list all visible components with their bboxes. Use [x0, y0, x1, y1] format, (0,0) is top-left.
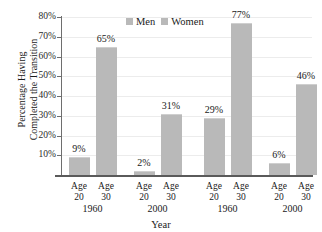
bar-chart: Percentage Having Completed the Transiti…	[0, 0, 322, 232]
x-axis-group-label: 1960	[203, 204, 253, 214]
y-axis-tick-label: 30%	[22, 111, 56, 121]
bar[interactable]	[96, 47, 117, 175]
x-axis-tick-label-word: Age	[221, 181, 261, 192]
bar-value-label: 2%	[124, 158, 164, 168]
y-axis-tick-label: 10%	[22, 150, 56, 160]
bar[interactable]	[134, 171, 155, 175]
legend: Men Women	[126, 16, 204, 27]
plot-area: 9%65%2%31%29%77%6%46%	[62, 17, 312, 175]
bar[interactable]	[161, 114, 182, 175]
bar-value-label: 65%	[86, 34, 126, 44]
x-axis-tick-label-word: Age	[86, 181, 126, 192]
y-axis-tick-label: 20%	[22, 131, 56, 141]
x-axis-group-label: 2000	[133, 204, 183, 214]
x-axis-title: Year	[0, 219, 322, 230]
legend-label-men: Men	[136, 16, 155, 27]
x-axis-tick-label-number: 30	[86, 192, 126, 203]
bar-value-label: 31%	[151, 101, 191, 111]
bar[interactable]	[296, 84, 317, 175]
x-axis-tick-label: Age30	[86, 181, 126, 202]
y-axis-tick-label: 70%	[22, 32, 56, 42]
legend-item-men[interactable]: Men	[126, 16, 155, 27]
x-axis-group-label: 2000	[268, 204, 318, 214]
x-axis-tick-label: Age30	[221, 181, 261, 202]
bar-value-label: 77%	[221, 10, 261, 20]
bar[interactable]	[269, 163, 290, 175]
legend-label-women: Women	[171, 16, 203, 27]
legend-swatch-icon-men	[126, 18, 133, 25]
y-axis-tick-labels: 80%70%60%50%40%30%20%10%	[18, 0, 56, 232]
bar-value-label: 6%	[259, 150, 299, 160]
bar[interactable]	[231, 23, 252, 175]
x-axis-line	[55, 175, 313, 177]
bar[interactable]	[204, 118, 225, 175]
x-axis-tick-label: Age30	[151, 181, 191, 202]
y-axis-tick-label: 50%	[22, 71, 56, 81]
x-axis-tick-label-number: 30	[151, 192, 191, 203]
bar-value-label: 29%	[194, 105, 234, 115]
x-axis-tick-label: Age30	[286, 181, 322, 202]
x-axis-tick-label-number: 30	[221, 192, 261, 203]
bar-value-label: 9%	[59, 144, 99, 154]
x-axis-tick-label-word: Age	[286, 181, 322, 192]
y-axis-tick-label: 60%	[22, 52, 56, 62]
legend-item-women[interactable]: Women	[161, 16, 203, 27]
x-axis-tick-label-number: 30	[286, 192, 322, 203]
bar[interactable]	[69, 157, 90, 175]
bar-value-label: 46%	[286, 71, 322, 81]
y-axis-tick-label: 40%	[22, 91, 56, 101]
y-axis-tick-label: 80%	[22, 12, 56, 22]
x-axis-group-label: 1960	[68, 204, 118, 214]
x-axis-tick-label-word: Age	[151, 181, 191, 192]
legend-swatch-icon-women	[161, 18, 168, 25]
